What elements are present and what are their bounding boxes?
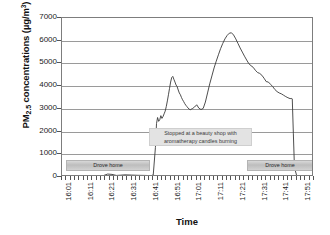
- x-tick-label: 16:11: [86, 182, 95, 200]
- x-tick-mark: [239, 176, 240, 180]
- x-tick-mark: [104, 176, 105, 180]
- x-tick-label: 16:31: [129, 182, 138, 201]
- x-tick-mark: [265, 176, 266, 180]
- x-tick-mark: [248, 176, 249, 180]
- x-tick-label: 17:51: [303, 182, 312, 201]
- y-tick-label: 5000: [17, 57, 57, 66]
- y-tick-label: 0: [17, 171, 57, 180]
- x-tick-mark: [222, 176, 223, 180]
- x-tick-mark: [200, 176, 201, 180]
- x-tick-mark: [113, 176, 114, 180]
- y-tick-label: 4000: [17, 80, 57, 89]
- x-tick-mark: [283, 176, 284, 180]
- x-tick-mark: [257, 176, 258, 180]
- x-tick-label: 17:31: [260, 182, 269, 201]
- chart-figure: PM2.5 concentrations (µg/m3) 70006000500…: [0, 0, 330, 235]
- x-tick-label: 16:21: [107, 182, 116, 201]
- annotation-drove-home-right: Drove home: [247, 160, 313, 171]
- x-tick-mark: [187, 176, 188, 180]
- x-tick-mark: [78, 176, 79, 180]
- x-tick-mark: [209, 176, 210, 180]
- x-axis-title: Time: [61, 216, 313, 227]
- x-tick-mark: [122, 176, 123, 180]
- x-tick-mark: [243, 176, 244, 180]
- x-tick-mark: [83, 176, 84, 180]
- x-tick-mark: [157, 176, 158, 180]
- x-tick-label: 17:21: [238, 182, 247, 201]
- x-tick-mark: [183, 176, 184, 180]
- y-tick-label: 6000: [17, 35, 57, 44]
- x-tick-mark: [74, 176, 75, 180]
- x-tick-mark: [61, 176, 62, 180]
- y-tick-label: 7000: [17, 12, 57, 21]
- x-tick-mark: [213, 176, 214, 180]
- x-tick-mark: [100, 176, 101, 180]
- annotation-beauty-shop: Stopped at a beauty shop with aromathera…: [149, 128, 252, 146]
- x-tick-mark: [270, 176, 271, 180]
- x-tick-mark: [70, 176, 71, 180]
- y-tick-label: 1000: [17, 148, 57, 157]
- y-tick-label: 2000: [17, 126, 57, 135]
- x-tick-mark: [131, 176, 132, 180]
- x-tick-mark: [230, 176, 231, 180]
- x-tick-mark: [65, 176, 66, 180]
- x-tick-mark: [204, 176, 205, 180]
- x-tick-mark: [235, 176, 236, 180]
- x-tick-mark: [139, 176, 140, 180]
- x-tick-mark: [291, 176, 292, 180]
- x-tick-mark: [287, 176, 288, 180]
- x-tick-mark: [261, 176, 262, 180]
- x-tick-mark: [161, 176, 162, 180]
- data-series-line: [62, 18, 313, 176]
- y-tick-label: 3000: [17, 103, 57, 112]
- x-tick-mark: [126, 176, 127, 180]
- x-tick-mark: [152, 176, 153, 180]
- x-tick-mark: [313, 176, 314, 180]
- x-tick-mark: [178, 176, 179, 180]
- x-tick-mark: [96, 176, 97, 180]
- annotation-drove-home-left: Drove home: [66, 160, 150, 171]
- x-tick-label: 16:01: [64, 182, 73, 201]
- x-tick-label: 17:01: [194, 182, 203, 201]
- x-tick-mark: [165, 176, 166, 180]
- x-tick-mark: [148, 176, 149, 180]
- x-tick-mark: [191, 176, 192, 180]
- x-tick-mark: [87, 176, 88, 180]
- y-axis-title-suffix: ): [20, 2, 31, 5]
- x-tick-mark: [196, 176, 197, 180]
- x-tick-mark: [217, 176, 218, 180]
- x-tick-mark: [309, 176, 310, 180]
- y-axis-title-superscript: 3: [20, 5, 27, 9]
- plot-area: Stopped at a beauty shop with aromathera…: [61, 17, 313, 176]
- x-tick-mark: [144, 176, 145, 180]
- x-tick-mark: [117, 176, 118, 180]
- x-tick-mark: [91, 176, 92, 180]
- x-tick-label: 17:41: [281, 182, 290, 201]
- x-tick-mark: [304, 176, 305, 180]
- x-tick-mark: [174, 176, 175, 180]
- x-tick-mark: [170, 176, 171, 180]
- x-tick-mark: [226, 176, 227, 180]
- x-tick-label: 16:51: [173, 182, 182, 201]
- x-tick-mark: [252, 176, 253, 180]
- x-tick-mark: [300, 176, 301, 180]
- x-tick-mark: [274, 176, 275, 180]
- x-tick-label: 16:41: [151, 182, 160, 201]
- x-tick-mark: [296, 176, 297, 180]
- x-tick-mark: [135, 176, 136, 180]
- x-tick-mark: [109, 176, 110, 180]
- x-tick-label: 17:11: [216, 182, 225, 200]
- x-tick-mark: [278, 176, 279, 180]
